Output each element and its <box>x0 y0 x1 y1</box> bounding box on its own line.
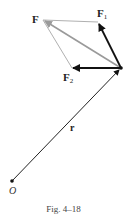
construction-line-top <box>43 20 98 22</box>
vector-diagram <box>0 0 127 216</box>
label-F: F <box>32 14 39 25</box>
label-F2: F2 <box>63 72 73 85</box>
application-point <box>119 66 123 70</box>
label-F2-main: F <box>63 71 70 83</box>
label-r: r <box>70 123 74 133</box>
label-F1: F1 <box>97 8 107 21</box>
position-vector-r <box>12 70 119 181</box>
label-F1-subscript: 1 <box>104 13 108 21</box>
label-F2-subscript: 2 <box>70 77 74 85</box>
origin-point <box>10 179 14 183</box>
label-F1-main: F <box>97 7 104 19</box>
label-O: O <box>9 185 16 196</box>
figure-caption: Fig. 4–18 <box>0 204 127 214</box>
construction-line-left <box>43 20 72 68</box>
